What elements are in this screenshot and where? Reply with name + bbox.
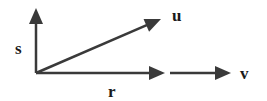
- vector-s-label: s: [15, 39, 22, 58]
- vector-r: r: [36, 66, 165, 101]
- vector-u-label: u: [172, 6, 181, 25]
- vector-s: s: [15, 8, 43, 73]
- vector-v-label: v: [240, 64, 249, 83]
- arrowhead-icon: [149, 66, 165, 80]
- vector-v: v: [170, 64, 249, 83]
- arrowhead-icon: [215, 66, 231, 80]
- vector-u-line: [36, 22, 154, 73]
- arrowhead-icon: [29, 8, 43, 24]
- vector-diagram: surv: [0, 0, 267, 101]
- vector-u: u: [36, 6, 181, 73]
- vector-r-label: r: [108, 82, 116, 101]
